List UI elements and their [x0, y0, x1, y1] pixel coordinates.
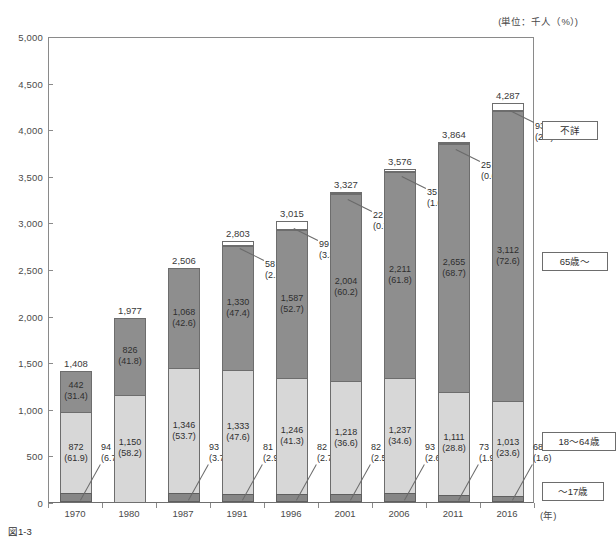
- bar-segment-old: [276, 230, 308, 378]
- x-axis-label-2006: 2006: [369, 508, 429, 519]
- x-axis-label-2001: 2001: [315, 508, 375, 519]
- y-axis-label: 2,500: [3, 265, 43, 276]
- bar-1970: 872(61.9)442(31.4): [60, 36, 92, 502]
- bar-segment-adult: [60, 412, 92, 493]
- bar-segment-unknown: [438, 142, 470, 144]
- x-axis-tick: [534, 503, 535, 508]
- bar-segment-unknown: [222, 241, 254, 246]
- bar-total-label: 2,506: [154, 255, 214, 266]
- y-axis-tick: [48, 84, 53, 85]
- y-axis-label: 1,500: [3, 358, 43, 369]
- bar-segment-child: [168, 493, 200, 502]
- legend-item-unknown[interactable]: 不詳: [542, 121, 598, 140]
- y-axis-tick: [48, 270, 53, 271]
- y-axis-tick: [48, 363, 53, 364]
- y-axis-label: 3,500: [3, 171, 43, 182]
- y-axis-tick: [48, 456, 53, 457]
- bar-total-label: 1,977: [100, 305, 160, 316]
- legend-item-adult[interactable]: 18〜64歳: [542, 432, 616, 451]
- bar-segment-old: [438, 144, 470, 391]
- x-axis-tick: [318, 503, 319, 508]
- y-axis-label: 1,000: [3, 404, 43, 415]
- x-axis-tick: [156, 503, 157, 508]
- bar-segment-child: [276, 494, 308, 502]
- x-axis-unit: (年): [540, 508, 556, 522]
- legend-item-old[interactable]: 65歳〜: [542, 252, 608, 271]
- x-axis-tick: [372, 503, 373, 508]
- bar-total-label: 4,287: [478, 90, 538, 101]
- bar-segment-old: [60, 371, 92, 412]
- y-axis-tick: [48, 317, 53, 318]
- y-axis-label: 4,500: [3, 78, 43, 89]
- bar-2006: 1,237(34.6)2,211(61.8): [384, 36, 416, 502]
- bar-segment-child: [330, 494, 362, 502]
- legend-item-child[interactable]: 〜17歳: [542, 482, 604, 501]
- y-axis-label: 5,000: [3, 32, 43, 43]
- y-axis-label: 500: [3, 451, 43, 462]
- x-axis-label-1980: 1980: [99, 508, 159, 519]
- x-axis-label-2016: 2016: [477, 508, 537, 519]
- bar-segment-adult: [438, 392, 470, 496]
- bar-1996: 1,246(41.3)1,587(52.7): [276, 36, 308, 502]
- bar-segment-child: [492, 496, 524, 502]
- bar-segment-child: [222, 494, 254, 502]
- x-axis-tick: [480, 503, 481, 508]
- y-axis-tick: [48, 223, 53, 224]
- bar-segment-child: [384, 493, 416, 502]
- bar-2016: 1,013(23.6)3,112(72.6): [492, 36, 524, 502]
- y-axis-label: 4,000: [3, 125, 43, 136]
- y-axis-label: 0: [3, 498, 43, 509]
- x-axis-label-1970: 1970: [45, 508, 105, 519]
- bar-segment-adult: [114, 395, 146, 502]
- y-axis-tick: [48, 177, 53, 178]
- x-axis-label-1996: 1996: [261, 508, 321, 519]
- bar-total-label: 1,408: [46, 358, 106, 369]
- x-axis-tick: [264, 503, 265, 508]
- y-axis-tick: [48, 37, 53, 38]
- x-axis-tick: [102, 503, 103, 508]
- y-axis-label: 2,000: [3, 311, 43, 322]
- bar-segment-unknown: [492, 103, 524, 112]
- bar-segment-unknown: [330, 192, 362, 194]
- bar-total-label: 3,864: [424, 129, 484, 140]
- bar-segment-adult: [330, 381, 362, 495]
- bar-total-label: 3,576: [370, 156, 430, 167]
- bar-segment-old: [222, 246, 254, 370]
- bar-segment-adult: [492, 401, 524, 495]
- bar-1991: 1,333(47.6)1,330(47.4): [222, 36, 254, 502]
- bar-total-label: 3,327: [316, 179, 376, 190]
- bar-segment-old: [492, 111, 524, 401]
- figure-caption: 図1-3: [8, 524, 32, 538]
- bar-segment-old: [114, 318, 146, 395]
- bar-segment-unknown: [276, 221, 308, 230]
- bar-segment-adult: [384, 378, 416, 493]
- bar-total-label: 3,015: [262, 208, 322, 219]
- unit-note: (単位：千人（%）): [498, 14, 578, 28]
- bar-segment-adult: [222, 370, 254, 494]
- bar-segment-adult: [276, 378, 308, 494]
- bar-segment-old: [168, 268, 200, 368]
- bar-segment-unknown: [384, 169, 416, 172]
- x-axis-label-1987: 1987: [153, 508, 213, 519]
- bar-total-label: 2,803: [208, 228, 268, 239]
- y-axis-label: 3,000: [3, 218, 43, 229]
- bar-2011: 1,111(28.8)2,655(68.7): [438, 36, 470, 502]
- bar-segment-child: [60, 493, 92, 502]
- plot-area: 872(61.9)442(31.4)1,40894(6.7)1,150(58.2…: [48, 37, 534, 503]
- y-axis-tick: [48, 130, 53, 131]
- x-axis-tick: [48, 503, 49, 508]
- bar-segment-child: [438, 495, 470, 502]
- bar-segment-adult: [168, 368, 200, 493]
- x-axis-label-2011: 2011: [423, 508, 483, 519]
- bar-segment-old: [330, 194, 362, 381]
- bar-1987: 1,346(53.7)1,068(42.6): [168, 36, 200, 502]
- y-axis-tick: [48, 410, 53, 411]
- bar-1980: 1,150(58.2)826(41.8): [114, 36, 146, 502]
- x-axis-tick: [210, 503, 211, 508]
- bar-segment-old: [384, 172, 416, 378]
- bar-2001: 1,218(36.6)2,004(60.2): [330, 36, 362, 502]
- x-axis-tick: [426, 503, 427, 508]
- x-axis-label-1991: 1991: [207, 508, 267, 519]
